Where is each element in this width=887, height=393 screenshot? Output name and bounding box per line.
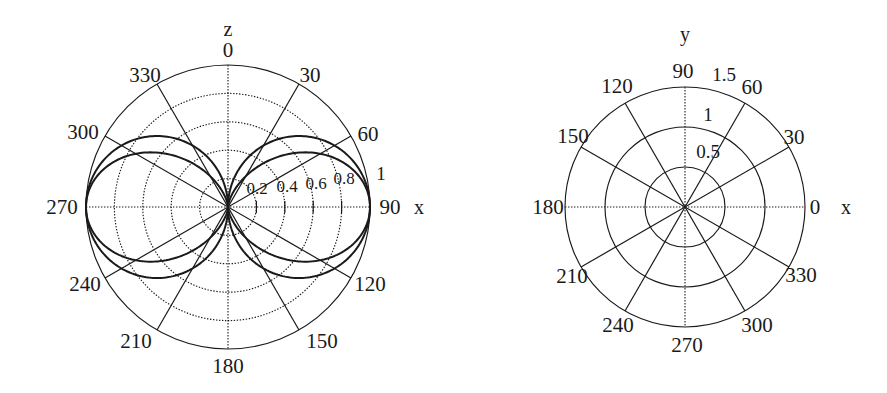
angle-label-60: 60 bbox=[742, 75, 763, 99]
angle-label-30: 30 bbox=[784, 125, 805, 149]
angle-label-0: 0 bbox=[810, 195, 821, 219]
right-radial-tick-labels: 0.5 1 1.5 bbox=[696, 64, 736, 162]
radial-label-1-5: 1.5 bbox=[712, 64, 736, 85]
angle-label-150: 150 bbox=[557, 124, 589, 148]
right-angular-tick-labels: 0 30 60 90 120 150 180 210 240 270 300 3… bbox=[532, 59, 820, 357]
right-polar-plot: 0.5 1 1.5 0 30 60 90 120 150 180 210 240… bbox=[0, 0, 887, 393]
angle-label-300: 300 bbox=[741, 313, 773, 337]
right-horizontal-axis-label: x bbox=[841, 196, 851, 218]
angle-label-120: 120 bbox=[601, 74, 633, 98]
right-polar-svg: 0.5 1 1.5 0 30 60 90 120 150 180 210 240… bbox=[0, 0, 887, 393]
angle-label-270: 270 bbox=[671, 333, 703, 357]
right-angular-spokes bbox=[565, 87, 805, 327]
angle-label-330: 330 bbox=[785, 263, 817, 287]
angle-label-210: 210 bbox=[556, 264, 588, 288]
angle-label-240: 240 bbox=[602, 313, 634, 337]
radial-label-0-5: 0.5 bbox=[696, 141, 720, 162]
angle-label-180: 180 bbox=[532, 195, 564, 219]
angle-label-90: 90 bbox=[673, 59, 694, 83]
right-vertical-axis-label: y bbox=[680, 23, 690, 46]
polar-plot-figure: 0.2 0.4 0.6 0.8 1 0 30 60 90 120 150 180… bbox=[0, 0, 887, 393]
radial-label-1: 1 bbox=[703, 104, 713, 125]
